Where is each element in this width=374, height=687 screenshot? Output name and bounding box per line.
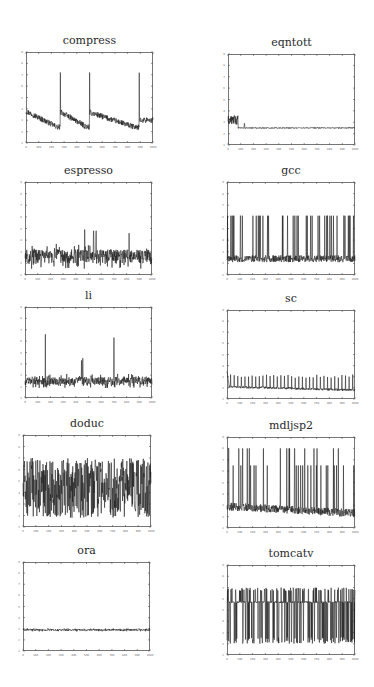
y-tick-label: 9: [222, 181, 224, 184]
y-tick-label: 5: [222, 228, 224, 231]
data-series-espresso: [25, 230, 152, 269]
y-tick-label: 3: [21, 119, 23, 122]
x-tick-label: 700: [109, 654, 114, 657]
x-tick-label: 500: [289, 148, 294, 151]
y-tick-label: 7: [223, 76, 225, 79]
chart-title-compress: compress: [26, 34, 153, 47]
x-tick-label: 0: [226, 278, 228, 281]
y-tick-label: 1: [20, 397, 22, 400]
y-tick-label: 5: [21, 97, 23, 100]
x-tick-label: 700: [314, 278, 319, 281]
x-tick-label: 1000: [147, 654, 154, 657]
y-tick-label: 2: [222, 262, 224, 265]
y-tick-label: 9: [222, 436, 224, 439]
y-tick-label: 1: [21, 142, 23, 145]
line-chart-compress: 0100200300400500600700800900100012345678…: [26, 52, 153, 143]
y-tick-label: 6: [18, 469, 20, 472]
x-tick-label: 600: [99, 401, 104, 404]
y-tick-label: 5: [223, 99, 225, 102]
x-tick-label: 500: [85, 530, 90, 533]
x-tick-label: 300: [263, 278, 268, 281]
x-tick-label: 200: [250, 531, 255, 534]
y-tick-label: 7: [18, 583, 20, 586]
chart-title-espresso: espresso: [25, 164, 152, 177]
y-tick-label: 2: [21, 131, 23, 134]
x-tick-label: 600: [301, 402, 306, 405]
x-tick-label: 400: [72, 530, 77, 533]
y-tick-label: 2: [223, 133, 225, 136]
y-tick-label: 2: [18, 515, 20, 518]
y-tick-label: 4: [21, 108, 23, 111]
plot-frame: [24, 563, 150, 651]
y-tick-label: 8: [18, 572, 20, 575]
data-series-gcc: [227, 216, 355, 263]
y-tick-label: 8: [20, 317, 22, 320]
x-tick-label: 400: [276, 658, 281, 661]
y-tick-label: 9: [18, 434, 20, 437]
x-tick-label: 500: [289, 278, 294, 281]
x-tick-label: 0: [25, 146, 27, 149]
data-series-sc: [227, 371, 355, 391]
x-tick-label: 400: [73, 401, 78, 404]
data-series-li: [25, 334, 152, 388]
x-tick-label: 100: [35, 401, 40, 404]
x-tick-label: 900: [136, 530, 141, 533]
y-tick-label: 5: [222, 354, 224, 357]
x-tick-label: 100: [33, 654, 38, 657]
y-tick-label: 4: [222, 365, 224, 368]
x-tick-label: 900: [340, 658, 345, 661]
x-tick-label: 1000: [148, 530, 155, 533]
x-tick-label: 400: [276, 531, 281, 534]
x-tick-label: 300: [62, 146, 67, 149]
chart-title-doduc: doduc: [23, 417, 151, 430]
x-tick-label: 600: [97, 530, 102, 533]
x-tick-label: 500: [289, 658, 294, 661]
x-tick-label: 100: [237, 278, 242, 281]
x-tick-label: 800: [124, 278, 129, 281]
x-tick-label: 0: [22, 654, 24, 657]
chart-title-eqntott: eqntott: [228, 36, 355, 49]
x-tick-label: 400: [276, 402, 281, 405]
x-tick-label: 200: [49, 146, 54, 149]
y-tick-label: 6: [222, 342, 224, 345]
y-tick-label: 7: [18, 457, 20, 460]
y-tick-label: 5: [20, 228, 22, 231]
y-tick-label: 1: [222, 654, 224, 657]
x-tick-label: 500: [289, 402, 294, 405]
y-tick-label: 6: [222, 470, 224, 473]
x-tick-label: 0: [227, 148, 229, 151]
x-tick-label: 500: [289, 531, 294, 534]
line-chart-eqntott: 0100200300400500600700800900100012345678…: [228, 54, 355, 145]
x-tick-label: 800: [125, 146, 130, 149]
line-chart-espresso: 0100200300400500600700800900100012345678…: [25, 182, 152, 275]
y-tick-label: 1: [18, 650, 20, 653]
y-tick-label: 9: [18, 561, 20, 564]
y-tick-label: 9: [21, 51, 23, 54]
y-tick-label: 7: [20, 204, 22, 207]
y-tick-label: 8: [222, 575, 224, 578]
y-tick-label: 5: [18, 480, 20, 483]
y-tick-label: 2: [20, 386, 22, 389]
x-tick-label: 100: [36, 146, 41, 149]
x-tick-label: 200: [48, 401, 53, 404]
chart-title-gcc: gcc: [227, 164, 355, 177]
y-tick-label: 5: [222, 482, 224, 485]
y-tick-label: 4: [20, 363, 22, 366]
x-tick-label: 900: [137, 401, 142, 404]
x-tick-label: 600: [301, 278, 306, 281]
x-tick-label: 800: [122, 654, 127, 657]
x-tick-label: 1000: [352, 278, 359, 281]
y-tick-label: 5: [222, 609, 224, 612]
x-tick-label: 200: [48, 278, 53, 281]
y-tick-label: 6: [222, 216, 224, 219]
x-tick-label: 300: [263, 658, 268, 661]
y-tick-label: 6: [20, 340, 22, 343]
x-tick-label: 300: [61, 401, 66, 404]
x-tick-label: 700: [314, 402, 319, 405]
y-tick-label: 4: [18, 617, 20, 620]
x-tick-label: 1000: [352, 402, 359, 405]
x-tick-label: 700: [111, 401, 116, 404]
x-tick-label: 700: [314, 531, 319, 534]
chart-title-sc: sc: [227, 292, 355, 305]
y-tick-label: 7: [21, 74, 23, 77]
